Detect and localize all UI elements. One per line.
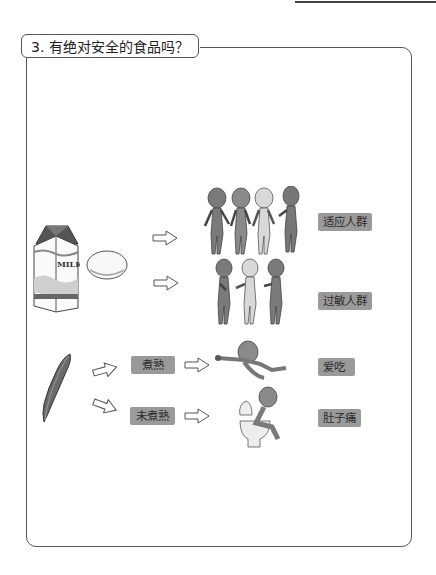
section-title: 3. 有绝对安全的食品吗？ <box>21 34 199 58</box>
label-stomachache: 肚子痛 <box>318 409 361 427</box>
label-uncooked: 未煮熟 <box>130 407 175 425</box>
top-rule <box>295 1 436 3</box>
svg-text:MILK: MILK <box>57 259 80 269</box>
label-adapted-group: 适应人群 <box>318 213 372 231</box>
eating-figure <box>214 340 294 382</box>
arrow-right-icon <box>92 362 118 378</box>
adapted-group-figures <box>203 186 303 258</box>
bean-pod-illustration <box>38 352 74 424</box>
arrow-right-icon <box>184 357 210 373</box>
stomachache-figure <box>236 385 288 449</box>
arrow-right-icon <box>152 230 178 246</box>
egg-illustration <box>86 250 128 280</box>
allergic-group-figures <box>212 258 292 328</box>
milk-carton-illustration: MILK <box>32 222 80 314</box>
arrow-right-icon <box>92 398 118 414</box>
arrow-right-icon <box>153 275 179 291</box>
label-likes-to-eat: 爱吃 <box>318 358 355 376</box>
label-allergic-group: 过敏人群 <box>318 292 372 310</box>
section-title-text: 3. 有绝对安全的食品吗？ <box>31 36 189 56</box>
arrow-right-icon <box>184 408 210 424</box>
label-cooked: 煮熟 <box>131 356 175 374</box>
